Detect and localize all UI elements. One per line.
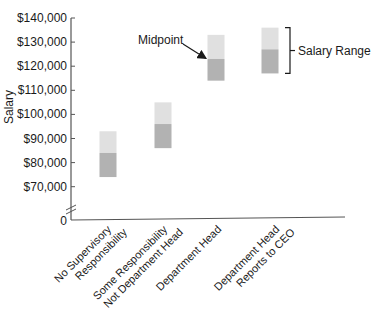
y-tick-label: $120,000 xyxy=(17,59,67,73)
salary-range-chart: Salary $140,000$130,000$120,000$110,000$… xyxy=(0,0,375,327)
salary-range-bar xyxy=(155,102,172,148)
bar-upper-segment xyxy=(208,35,225,59)
salary-range-annotation: Salary Range xyxy=(298,44,371,58)
bar-upper-segment xyxy=(155,102,172,124)
salary-range-bar xyxy=(208,35,225,81)
y-zero-label: 0 xyxy=(60,214,67,228)
bars-group xyxy=(100,28,279,177)
salary-range-bar xyxy=(262,28,279,74)
bracket-icon xyxy=(285,28,290,74)
y-tick-label: $80,000 xyxy=(24,156,68,170)
annotations: MidpointSalary Range xyxy=(138,28,371,74)
salary-range-bar xyxy=(100,131,117,177)
y-axis-label: Salary xyxy=(2,90,16,124)
bar-lower-segment xyxy=(262,49,279,73)
bar-upper-segment xyxy=(100,131,117,153)
y-axis: $140,000$130,000$120,000$110,000$100,000… xyxy=(17,11,76,228)
x-category-label: Department HeadReports to CEO xyxy=(212,216,298,302)
y-tick-label: $100,000 xyxy=(17,107,67,121)
y-tick-label: $110,000 xyxy=(18,83,67,97)
bar-upper-segment xyxy=(262,28,279,50)
y-tick-label: $90,000 xyxy=(24,132,68,146)
y-tick-label: $130,000 xyxy=(17,35,67,49)
y-tick-label: $70,000 xyxy=(24,180,68,194)
x-axis xyxy=(71,217,345,220)
arrow-icon xyxy=(183,44,206,58)
category-labels: No SupervisoryResponsibilitySome Respons… xyxy=(52,216,298,311)
y-tick-label: $140,000 xyxy=(17,11,67,25)
bar-lower-segment xyxy=(208,59,225,81)
bar-lower-segment xyxy=(100,153,117,177)
midpoint-annotation: Midpoint xyxy=(138,33,184,47)
bar-lower-segment xyxy=(155,124,172,148)
